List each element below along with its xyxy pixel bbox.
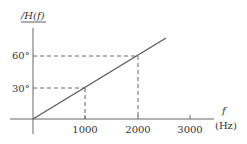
phase-line	[33, 38, 166, 119]
phase-chart: 60° 30° 1000 2000 3000 /H(f) f (Hz)	[0, 0, 247, 144]
x-tick-label-2000: 2000	[125, 124, 150, 135]
y-axis-label: /H(f)	[20, 10, 45, 21]
y-tick-label-30: 30°	[12, 83, 30, 94]
y-tick-label-60: 60°	[12, 50, 30, 61]
x-tick-label-3000: 3000	[177, 124, 202, 135]
x-axis-unit: (Hz)	[215, 120, 237, 131]
x-axis-label: f	[221, 105, 228, 116]
x-tick-label-1000: 1000	[72, 124, 97, 135]
